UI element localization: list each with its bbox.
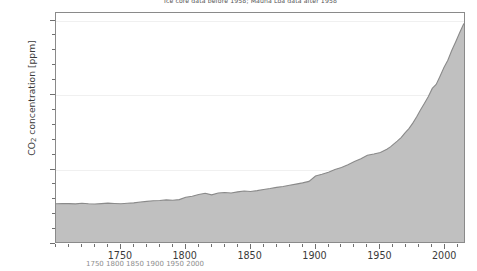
y-tick-minor-380 [52,49,55,50]
x-tick-minor-1840 [237,244,238,247]
x-tick-minor-1760 [133,244,134,247]
data-area-series [56,13,464,242]
x-tick-minor-1930 [353,244,354,247]
y-tick-minor-320 [52,139,55,140]
x-tick-minor-1990 [431,244,432,247]
x-tick-minor-1960 [392,244,393,247]
x-tick-minor-1820 [211,244,212,247]
y-tick-minor-330 [52,124,55,125]
y-tick-minor-310 [52,154,55,155]
x-tick-minor-1710 [68,244,69,247]
x-tick-minor-1740 [107,244,108,247]
x-tick-minor-1910 [328,244,329,247]
y-tick-minor-340 [52,109,55,110]
x-tick-minor-1970 [405,244,406,247]
x-tick-2000 [444,244,445,249]
x-tick-1800 [185,244,186,249]
x-tick-minor-1830 [224,244,225,247]
y-axis-title: CO2 concentration [ppm] [26,18,38,178]
y-axis-title-tail: concentration [ppm] [26,40,37,137]
y-tick-300 [50,169,55,170]
x-tick-minor-1810 [198,244,199,247]
bottom-caption-strip: 1750 1800 1850 1900 1950 2000 [0,258,477,271]
x-tick-minor-1790 [172,244,173,247]
y-axis-title-subscript: 2 [30,138,38,142]
plot-area [55,12,465,243]
x-tick-minor-1780 [159,244,160,247]
x-tick-minor-1730 [94,244,95,247]
y-tick-minor-360 [52,79,55,80]
x-tick-minor-1720 [81,244,82,247]
y-tick-minor-270 [52,213,55,214]
x-tick-minor-1770 [146,244,147,247]
y-tick-minor-260 [52,228,55,229]
x-tick-minor-1880 [289,244,290,247]
y-tick-minor-390 [52,34,55,35]
x-tick-minor-1920 [340,244,341,247]
x-tick-minor-1700 [55,244,56,247]
y-axis-title-text: CO [26,142,37,156]
y-tick-400 [50,20,55,21]
x-tick-1850 [250,244,251,249]
chart-title: Ice core data before 1958; Mauna Loa dat… [148,0,353,5]
co2-area-plot [56,13,465,243]
x-tick-minor-1860 [263,244,264,247]
x-tick-minor-1980 [418,244,419,247]
y-tick-350 [50,94,55,95]
x-tick-1900 [315,244,316,249]
co2-area-fill [56,23,465,243]
x-tick-1750 [120,244,121,249]
x-tick-minor-1890 [302,244,303,247]
co2-concentration-chart: Ice core data before 1958; Mauna Loa dat… [0,0,477,271]
bottom-caption-text: 1750 1800 1850 1900 1950 2000 [0,258,477,271]
y-tick-minor-280 [52,198,55,199]
y-tick-minor-370 [52,64,55,65]
x-tick-minor-1940 [366,244,367,247]
x-tick-minor-1870 [276,244,277,247]
chart-title-strip: Ice core data before 1958; Mauna Loa dat… [148,0,353,5]
x-tick-1950 [379,244,380,249]
y-tick-minor-290 [52,183,55,184]
x-tick-minor-2010 [457,244,458,247]
